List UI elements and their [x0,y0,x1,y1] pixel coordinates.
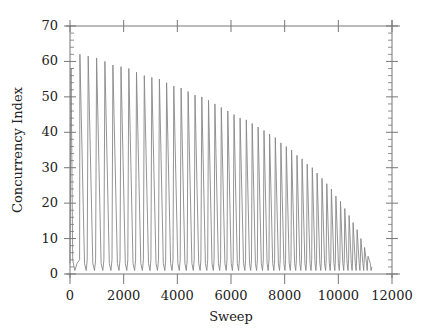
y-tick-label: 40 [41,124,58,139]
y-tick-label: 50 [41,89,58,104]
x-tick-label: 10000 [318,288,359,303]
x-tick-label: 2000 [107,288,140,303]
y-axis-title: Concurrency Index [10,86,25,213]
x-tick-label: 4000 [161,288,194,303]
x-tick-label: 8000 [268,288,301,303]
x-tick-label: 6000 [214,288,247,303]
x-tick-label: 0 [66,288,74,303]
x-axis-title: Sweep [209,309,253,324]
concurrency-line [70,54,372,270]
chart: 0200040006000800010000120000102030405060… [0,0,423,335]
y-tick-label: 60 [41,53,58,68]
y-tick-label: 70 [41,18,58,33]
y-tick-label: 10 [41,231,58,246]
x-tick-label: 12000 [371,288,412,303]
y-tick-label: 0 [50,266,58,281]
y-tick-label: 20 [41,195,58,210]
y-tick-label: 30 [41,160,58,175]
data-line-series [70,54,372,270]
